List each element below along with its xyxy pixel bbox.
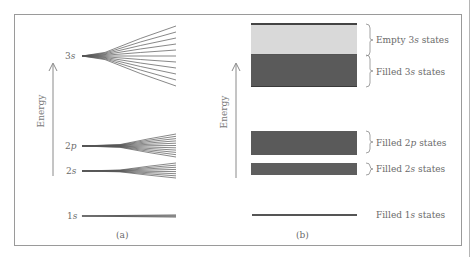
energy-axis-label-a: Energy	[36, 95, 46, 128]
energy-arrow-a	[49, 63, 57, 176]
band-filled-3s	[251, 55, 357, 87]
fan-2p	[82, 134, 176, 157]
label-filled-1s: Filled 1s states	[376, 210, 445, 220]
level-label-1s: 1s	[67, 211, 77, 221]
level-label-2s: 2s	[66, 166, 76, 176]
energy-axis-label-b: Energy	[219, 96, 229, 129]
fan-3s	[82, 26, 176, 86]
level-label-3s: 3s	[65, 51, 75, 61]
level-label-2p: 2p	[65, 141, 77, 151]
band-empty-3s	[251, 23, 357, 55]
panel-a-caption: (a)	[116, 230, 128, 240]
band-filled-2s	[251, 163, 357, 175]
label-filled-2s: Filled 2s states	[376, 164, 445, 174]
fan-2s	[82, 163, 176, 178]
band-filled-2p	[251, 131, 357, 155]
label-filled-3s: Filled 3s states	[376, 67, 445, 77]
fan-1s	[82, 215, 176, 217]
label-filled-2p: Filled 2p states	[376, 138, 446, 148]
label-empty-3s: Empty 3s states	[376, 35, 449, 45]
panel-b-caption: (b)	[296, 230, 309, 240]
